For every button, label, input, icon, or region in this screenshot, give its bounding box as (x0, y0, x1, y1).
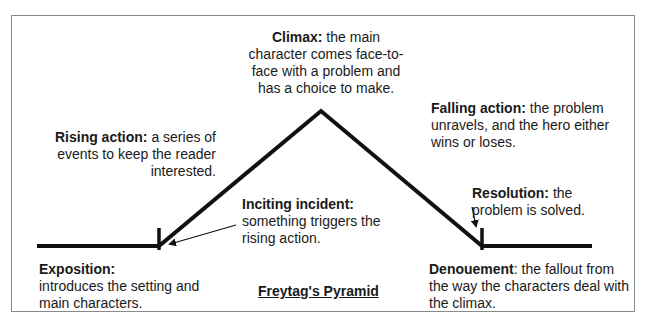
exposition-text: introduces the setting and main characte… (39, 278, 199, 311)
climax-label: Climax: the main character comes face-to… (246, 29, 406, 97)
exposition-term: Exposition: (39, 261, 115, 277)
rising-action-term: Rising action: (55, 129, 148, 145)
climax-term: Climax: (272, 29, 323, 45)
rising-action-label: Rising action: a series of events to kee… (38, 129, 216, 180)
falling-action-label: Falling action: the problem unravels, an… (431, 100, 631, 151)
denouement-label: Denouement: the fallout from the way the… (429, 261, 634, 312)
denouement-term: Denouement (429, 261, 514, 277)
inciting-incident-text: something triggers the rising action. (242, 213, 381, 246)
inciting-incident-term: Inciting incident: (242, 196, 354, 212)
exposition-label: Exposition: introduces the setting and m… (39, 261, 219, 312)
falling-action-term: Falling action: (431, 100, 526, 116)
diagram-title: Freytag's Pyramid (258, 283, 379, 299)
resolution-label: Resolution: the problem is solved. (472, 185, 622, 219)
resolution-term: Resolution: (472, 185, 549, 201)
inciting-incident-label: Inciting incident: something triggers th… (242, 196, 412, 247)
